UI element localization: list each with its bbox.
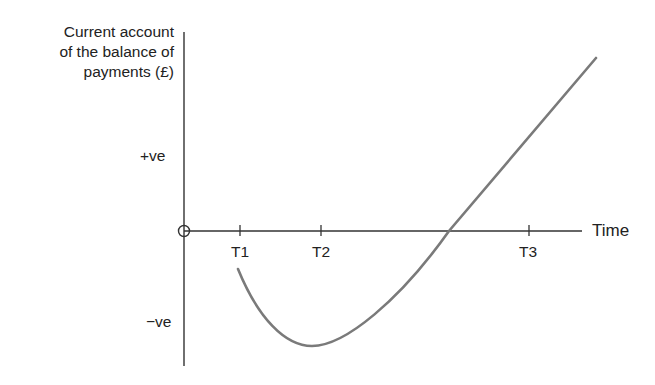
j-curve-diagram: [0, 0, 655, 385]
j-curve-line: [238, 58, 596, 346]
x-tick-t2: T2: [312, 243, 330, 261]
y-tick-positive: +ve: [140, 147, 165, 165]
x-tick-t3: T3: [519, 243, 537, 261]
x-tick-t1: T1: [231, 243, 249, 261]
x-axis-label: Time: [592, 221, 629, 241]
y-tick-negative: −ve: [146, 313, 171, 331]
